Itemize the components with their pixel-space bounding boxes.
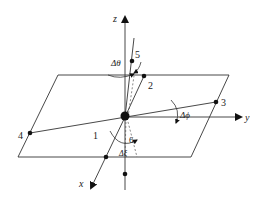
line-origin-5 bbox=[125, 38, 134, 117]
point-below bbox=[123, 172, 128, 177]
point-2-label: 2 bbox=[148, 80, 153, 91]
z-axis-label: z bbox=[112, 13, 117, 24]
point-3-label: 3 bbox=[221, 97, 226, 108]
coordinate-diagram: z y x 5 2 3 4 1 6 Δθ Δϕ Δξ bbox=[0, 0, 263, 203]
point-2 bbox=[142, 74, 147, 79]
point-4 bbox=[28, 131, 33, 136]
point-3 bbox=[214, 100, 219, 105]
point-5-label: 5 bbox=[135, 49, 140, 60]
theta-label: Δθ bbox=[110, 58, 121, 68]
point-5 bbox=[130, 59, 135, 64]
phi-arc bbox=[171, 100, 178, 123]
origin-point bbox=[121, 112, 130, 121]
xi-label: Δξ bbox=[118, 149, 128, 158]
line-origin-2 bbox=[125, 76, 144, 117]
y-axis-label: y bbox=[244, 112, 250, 123]
point-6-label: 6 bbox=[129, 135, 134, 145]
point-1-label: 1 bbox=[93, 130, 98, 141]
x-axis-label: x bbox=[78, 178, 84, 189]
theta-arc-tick bbox=[134, 62, 141, 73]
point-4-label: 4 bbox=[18, 130, 23, 141]
point-x-plane bbox=[104, 155, 109, 160]
phi-label: Δϕ bbox=[179, 110, 190, 120]
